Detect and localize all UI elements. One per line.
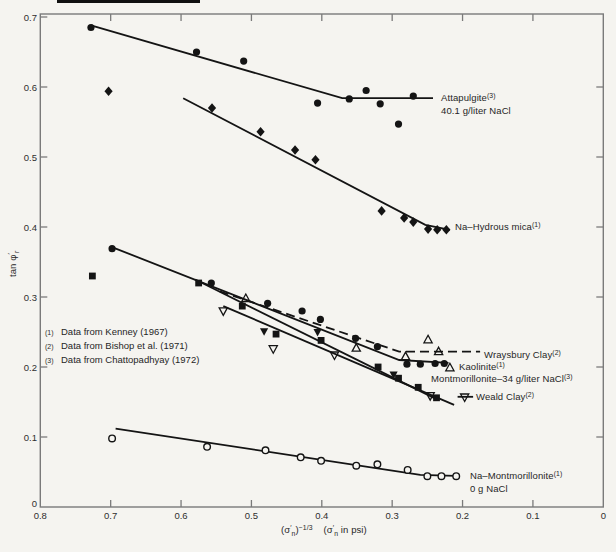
y-tick-label-0: 0 bbox=[32, 498, 37, 509]
x-tick-label-0.1: 0.1 bbox=[526, 510, 539, 521]
series-label-kaolinite: Kaolinite(1) bbox=[459, 361, 505, 374]
series-label-na-montmorillonite: Na–Montmorillonite(1)0 g NaCl bbox=[470, 470, 562, 495]
footnote-3-text: Data from Chattopadhyay (1972) bbox=[61, 354, 199, 365]
series-label-weald-clay: Weald Clay(2) bbox=[476, 391, 534, 404]
footnote-3-ref: (3) bbox=[45, 357, 61, 364]
x-tick-label-0.7: 0.7 bbox=[104, 510, 117, 521]
x-tick-label-0.4: 0.4 bbox=[315, 510, 328, 521]
y-tick-label-0.6: 0.6 bbox=[24, 82, 37, 93]
series-label-attapulgite: Attapulgite(3)40.1 g/liter NaCl bbox=[441, 92, 511, 117]
y-tick-label-0.2: 0.2 bbox=[24, 362, 37, 373]
y-tick-label-0.5: 0.5 bbox=[24, 152, 37, 163]
footnote-1: (1)Data from Kenney (1967) bbox=[45, 321, 199, 335]
footnote-2: (2)Data from Bishop et al. (1971) bbox=[45, 335, 199, 349]
x-tick-label-0.8: 0.8 bbox=[34, 510, 47, 521]
y-tick-label-0.3: 0.3 bbox=[24, 292, 37, 303]
footnote-list: (1)Data from Kenney (1967) (2)Data from … bbox=[45, 321, 199, 362]
y-axis-title: tan φ′r bbox=[7, 251, 20, 277]
series-label-montmorillonite-34: Montmorillonite–34 g/liter NaCl(3) bbox=[431, 373, 573, 386]
footnote-3: (3)Data from Chattopadhyay (1972) bbox=[45, 349, 199, 363]
x-tick-label-0.5: 0.5 bbox=[245, 510, 258, 521]
y-tick-label-0.7: 0.7 bbox=[24, 12, 37, 23]
y-tick-label-0.1: 0.1 bbox=[24, 432, 37, 443]
x-tick-label-0: 0 bbox=[601, 510, 606, 521]
series-label-wraysbury-clay: Wraysbury Clay(2) bbox=[484, 349, 561, 362]
x-tick-label-0.2: 0.2 bbox=[456, 510, 469, 521]
x-axis-title: (σ′n)−1/3 (σ′n in psi) bbox=[281, 524, 367, 537]
x-tick-label-0.3: 0.3 bbox=[386, 510, 399, 521]
x-tick-label-0.6: 0.6 bbox=[174, 510, 187, 521]
text-overlay: 0.80.70.60.50.40.30.20.1000.10.20.30.40.… bbox=[0, 0, 616, 552]
y-tick-label-0.4: 0.4 bbox=[24, 222, 37, 233]
series-label-na-hydrous-mica: Na–Hydrous mica(1) bbox=[455, 221, 541, 234]
chart: 0.80.70.60.50.40.30.20.1000.10.20.30.40.… bbox=[0, 0, 616, 552]
